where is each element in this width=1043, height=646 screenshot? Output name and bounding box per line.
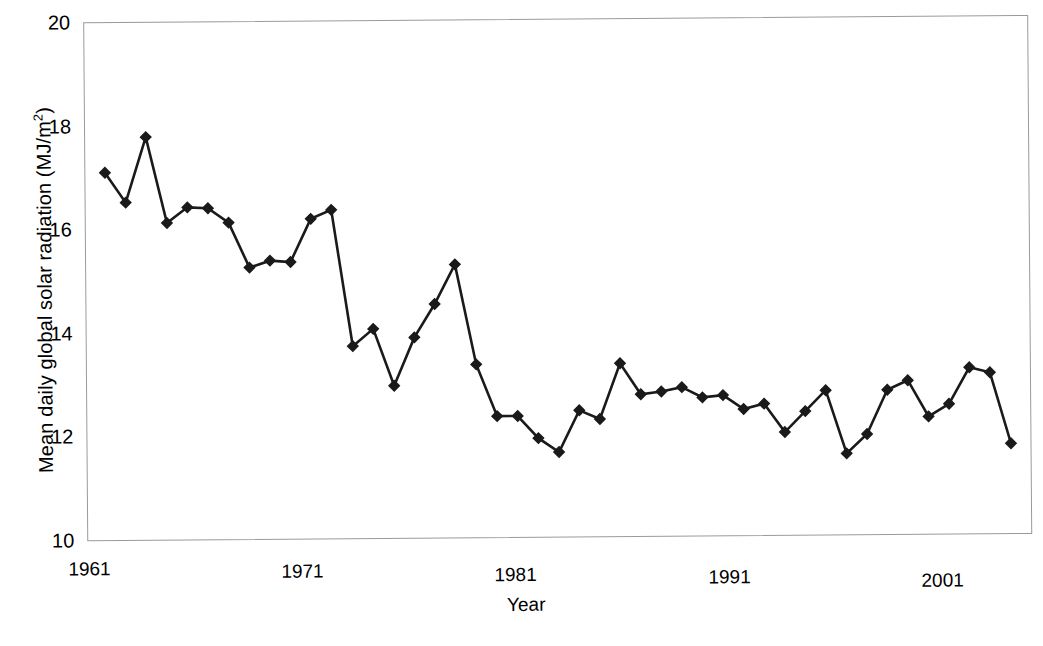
data-point-marker xyxy=(964,362,974,372)
data-point-marker xyxy=(285,257,295,267)
data-series-layer xyxy=(83,15,1032,541)
x-axis-title: Year xyxy=(5,590,1043,620)
data-point-marker xyxy=(492,411,502,421)
x-tick-label-1971: 1971 xyxy=(257,561,347,582)
data-point-marker xyxy=(326,205,336,215)
data-point-marker xyxy=(1006,438,1016,448)
data-point-marker xyxy=(265,255,275,265)
data-point-marker xyxy=(697,392,707,402)
plot-area xyxy=(83,15,1032,541)
data-point-marker xyxy=(305,214,315,224)
y-tick-label-12: 12 xyxy=(17,426,73,446)
data-point-marker xyxy=(471,359,481,369)
x-tick-label-2001: 2001 xyxy=(898,570,988,591)
data-point-marker xyxy=(677,382,687,392)
x-tick-label-1981: 1981 xyxy=(470,565,560,586)
y-tick-label-14: 14 xyxy=(17,323,73,343)
solar-radiation-line-chart: Mean daily global solar radiation (MJ/m2… xyxy=(0,0,1043,646)
data-point-marker xyxy=(389,381,399,391)
data-point-marker xyxy=(656,386,666,396)
y-axis-title-text: Mean daily global solar radiation (MJ/m xyxy=(32,121,57,473)
y-axis-title: Mean daily global solar radiation (MJ/m2… xyxy=(30,10,59,570)
series-line-solar-radiation xyxy=(105,130,1011,459)
data-point-marker xyxy=(450,259,460,269)
data-point-marker xyxy=(595,414,605,424)
data-point-marker xyxy=(574,405,584,415)
chart-skew-wrapper: Mean daily global solar radiation (MJ/m2… xyxy=(0,0,1043,646)
series-markers xyxy=(99,125,1016,464)
data-point-marker xyxy=(903,375,913,385)
y-tick-label-20: 20 xyxy=(14,12,70,32)
data-point-marker xyxy=(985,367,995,377)
data-point-marker xyxy=(882,384,892,394)
y-tick-label-16: 16 xyxy=(16,219,72,239)
y-tick-label-18: 18 xyxy=(15,116,71,136)
y-tick-label-10: 10 xyxy=(18,530,74,550)
x-tick-label-1991: 1991 xyxy=(684,567,774,588)
data-point-marker xyxy=(244,262,254,272)
x-tick-label-1961: 1961 xyxy=(44,559,134,580)
data-point-marker xyxy=(140,132,150,142)
y-axis-title-close: ) xyxy=(32,107,54,114)
